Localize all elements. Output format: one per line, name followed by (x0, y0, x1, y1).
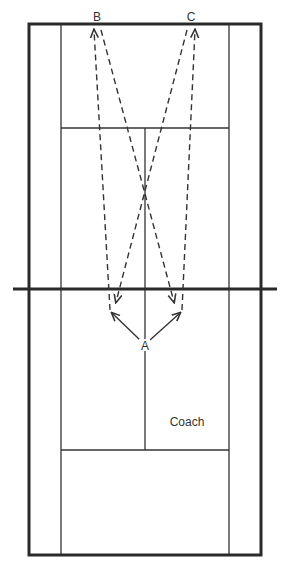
shot-path-left-to-b (94, 30, 110, 310)
label-player-c: C (187, 10, 196, 24)
shot-path-c-to-left (116, 30, 187, 302)
tennis-court-diagram: B C A Coach (0, 0, 285, 571)
arrow-a-to-right (150, 313, 180, 340)
label-player-b: B (93, 10, 101, 24)
label-player-a: A (141, 339, 149, 353)
label-coach: Coach (170, 415, 205, 429)
shot-path-b-to-right (101, 30, 174, 302)
shot-path-right-to-c (182, 30, 195, 310)
arrow-a-to-left (112, 313, 140, 340)
